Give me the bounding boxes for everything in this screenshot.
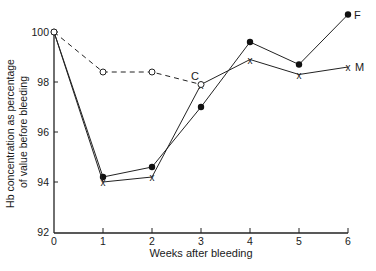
open-circle-marker [198, 82, 204, 88]
x-tick-label: 6 [345, 235, 351, 247]
series-label-M: M [355, 61, 364, 73]
x-tick-label: 3 [198, 235, 204, 247]
series-F: F [51, 9, 361, 181]
y-tick-label: 92 [37, 226, 49, 238]
y-axis-label-line-1: Hb concentration as percentage [4, 59, 16, 208]
series-line-F [54, 15, 348, 178]
x-marker: x [297, 70, 302, 81]
series-line-C [54, 32, 201, 85]
x-marker: x [346, 62, 351, 73]
axes: 012345692949698100 [31, 26, 351, 247]
y-tick-label: 100 [31, 26, 49, 38]
x-tick-label: 5 [296, 235, 302, 247]
filled-circle-marker [149, 164, 155, 170]
series-M: xxxxxxM [54, 32, 364, 188]
x-tick-label: 1 [100, 235, 106, 247]
filled-circle-marker [198, 104, 204, 110]
series-label-C: C [191, 70, 199, 82]
open-circle-marker [51, 29, 57, 35]
open-circle-marker [149, 69, 155, 75]
filled-circle-marker [296, 61, 302, 67]
filled-circle-marker [247, 39, 253, 45]
y-axis-label: Hb concentration as percentage of value … [4, 56, 29, 208]
series-C: C [51, 29, 204, 88]
x-tick-label: 0 [51, 235, 57, 247]
open-circle-marker [100, 69, 106, 75]
series-group: FxxxxxxMC [51, 9, 364, 189]
y-tick-label: 98 [37, 76, 49, 88]
x-marker: x [101, 177, 106, 188]
x-marker: x [150, 172, 155, 183]
y-tick-label: 94 [37, 176, 49, 188]
series-label-F: F [354, 9, 361, 21]
x-tick-label: 4 [247, 235, 253, 247]
filled-circle-marker [345, 11, 351, 17]
x-marker: x [248, 55, 253, 66]
x-tick-label: 2 [149, 235, 155, 247]
y-tick-label: 96 [37, 126, 49, 138]
x-axis-label: Weeks after bleeding [149, 247, 252, 259]
hb-line-chart: 012345692949698100 FxxxxxxMC Weeks after… [0, 0, 376, 271]
y-axis-label-line-2: of value before bleeding [17, 76, 29, 188]
